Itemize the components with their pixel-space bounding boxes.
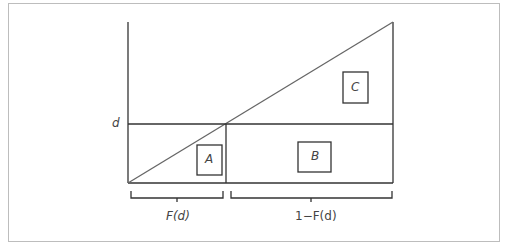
brace-label-fd: F(d) [166, 209, 190, 223]
diagram-graphic [0, 0, 507, 250]
brace-label-1-fd: 1−F(d) [295, 209, 337, 223]
region-label-c: C [351, 80, 359, 94]
region-label-a: A [205, 152, 213, 166]
brace-right [231, 191, 392, 202]
brace-left [131, 191, 223, 202]
y-label-d: d [112, 116, 120, 130]
region-label-b: B [311, 149, 319, 163]
